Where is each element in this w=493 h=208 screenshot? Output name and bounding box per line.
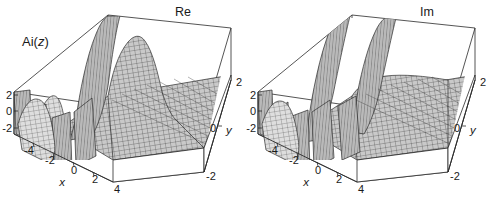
x-tick-label: 0 [71,164,77,176]
x-axis-label: x [302,176,310,188]
panel-title-re: Re [175,5,191,19]
surface-plot-svg-re: 2 0 -2 -4 -2 0 2 4 x [0,0,246,208]
x-tick-label: -2 [45,154,55,166]
surface-clip-wall-d-im [338,96,360,160]
x-tick-label: 2 [92,173,98,185]
x-axis-label: x [58,176,66,188]
x-tick-label: 2 [336,173,342,185]
y-axis-label: y [469,124,477,136]
surface-plot-panel-im: 2 0 -2 -4 -2 0 2 4 x [246,0,493,208]
x-tick-label: 4 [114,183,120,195]
z-tick-label: 2 [250,89,256,101]
y-tick-label: -2 [450,170,460,182]
y-tick-label: 2 [480,76,486,88]
function-label-main: Ai( [22,34,39,49]
y-tick-label: 0 [454,122,460,134]
y-axis-label: y [225,124,233,136]
surface-plot-svg-im: 2 0 -2 -4 -2 0 2 4 x [246,0,493,208]
function-label-close: ) [44,34,48,49]
x-tick-label: -2 [289,154,299,166]
x-tick-label: -4 [24,144,34,156]
z-tick-label: 0 [250,105,256,117]
x-tick-label: 0 [315,164,321,176]
x-tick-label: -4 [268,144,278,156]
panel-title-im: Im [420,5,434,19]
z-tick-label: -2 [2,122,12,134]
surface-clip-wall-c-im [312,100,334,168]
y-tick-label: 2 [236,76,242,88]
z-tick-label: 2 [6,89,12,101]
y-tick-label: 0 [210,122,216,134]
z-tick-label: 0 [6,105,12,117]
x-tick-label: 4 [358,183,364,195]
surface-clip-wall-trough-re [52,112,72,170]
function-label: Ai(z) [22,34,49,49]
surface-plot-panel-re: 2 0 -2 -4 -2 0 2 4 x [0,0,246,208]
z-tick-label: -2 [246,122,256,134]
y-tick-label: -2 [206,170,216,182]
airy-function-figure: 2 0 -2 -4 -2 0 2 4 x [0,0,493,208]
